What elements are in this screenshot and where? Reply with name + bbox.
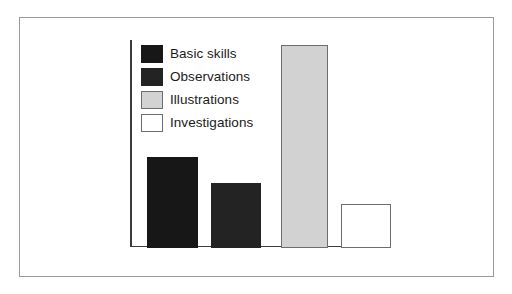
- chart-legend: Basic skills Observations Illustrations …: [141, 42, 341, 134]
- legend-label-illustrations: Illustrations: [170, 92, 239, 107]
- legend-label-observations: Observations: [170, 69, 250, 84]
- legend-swatch-observations: [141, 68, 163, 86]
- legend-item-basic-skills: Basic skills: [141, 42, 341, 65]
- legend-label-investigations: Investigations: [170, 115, 253, 130]
- bar-observations: [211, 183, 261, 248]
- legend-label-basic-skills: Basic skills: [170, 46, 237, 61]
- bar-investigations: [341, 204, 391, 248]
- legend-swatch-investigations: [141, 114, 163, 132]
- bar-basic-skills: [147, 157, 198, 248]
- legend-item-illustrations: Illustrations: [141, 88, 341, 111]
- legend-item-observations: Observations: [141, 65, 341, 88]
- bar-chart-figure: Basic skills Observations Illustrations …: [0, 0, 512, 294]
- legend-swatch-illustrations: [141, 91, 163, 109]
- legend-swatch-basic-skills: [141, 45, 163, 63]
- legend-item-investigations: Investigations: [141, 111, 341, 134]
